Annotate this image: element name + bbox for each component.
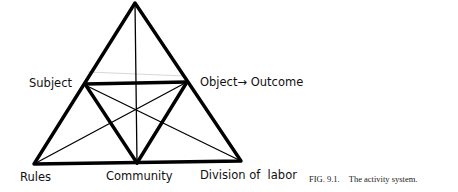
figure-caption: FIG. 9.1.The activity system. (309, 175, 417, 184)
node-label-rules: Rules (20, 172, 51, 184)
node-label-community: Community (106, 171, 173, 183)
figure-title: The activity system. (349, 174, 418, 184)
node-label-subject: Subject (29, 78, 72, 90)
line-object-to-community (137, 82, 187, 163)
line-subject-to-object (85, 82, 187, 84)
figure-number: FIG. 9.1. (309, 174, 340, 184)
line-subject-to-community (85, 84, 137, 163)
node-label-object-outcome: Object→ Outcome (200, 77, 303, 89)
node-label-division-of-labor: Division of labor (200, 170, 297, 182)
activity-system-diagram (0, 0, 458, 192)
